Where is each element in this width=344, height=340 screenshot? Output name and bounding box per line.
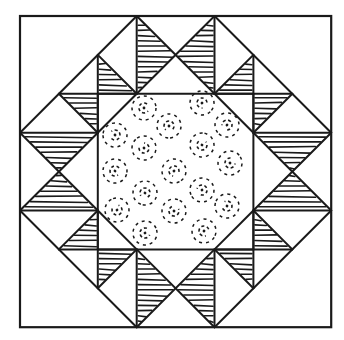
hatched-triangle-ne-lower — [255, 98, 287, 125]
dotted-swirl-icon — [158, 195, 190, 227]
pattern-line — [215, 94, 254, 133]
hatched-triangle-se-lower — [220, 253, 252, 279]
dotted-swirl-icon — [211, 190, 243, 222]
dotted-swirl-icon — [210, 108, 244, 142]
hatched-triangle-right-bottom-goose — [259, 176, 326, 207]
pattern-line — [98, 211, 137, 250]
hatched-triangle-se-upper — [255, 220, 287, 246]
dotted-swirl-icon — [158, 155, 190, 187]
dotted-swirl-icon — [130, 178, 161, 209]
hatched-triangle-ne-upper — [220, 64, 252, 90]
pattern-line — [215, 16, 332, 133]
hatched-triangle-sw-upper — [64, 220, 96, 247]
pattern-line — [98, 94, 137, 133]
pattern-line — [20, 16, 137, 133]
hatched-triangle-nw-lower — [64, 98, 96, 124]
dotted-swirl-icon — [187, 214, 220, 247]
hatched-triangle-left-top-goose — [26, 137, 93, 168]
dotted-swirl-motifs — [100, 86, 246, 248]
dotted-swirl-icon — [130, 218, 159, 247]
quilt-block-diagram — [0, 0, 344, 340]
hatched-triangle-sw-lower — [99, 253, 131, 279]
hatched-triangles — [25, 25, 326, 322]
hatched-triangle-nw-upper — [99, 64, 131, 91]
dotted-swirl-icon — [214, 147, 247, 180]
dotted-swirl-icon — [100, 156, 130, 186]
outer-square-border — [20, 16, 331, 327]
dotted-swirl-icon — [127, 131, 160, 164]
pattern-line — [20, 211, 137, 328]
hatched-triangle-left-bottom-goose — [25, 175, 92, 207]
dotted-swirl-icon — [186, 174, 217, 205]
hatched-triangle-right-top-goose — [259, 137, 326, 169]
dotted-swirl-icon — [132, 96, 156, 120]
pattern-line — [215, 211, 332, 328]
dotted-swirl-icon — [156, 113, 182, 139]
dotted-swirl-icon — [102, 195, 133, 226]
dotted-swirl-icon — [188, 131, 216, 159]
quilt-block-svg — [0, 0, 344, 340]
pattern-lines — [20, 16, 331, 327]
